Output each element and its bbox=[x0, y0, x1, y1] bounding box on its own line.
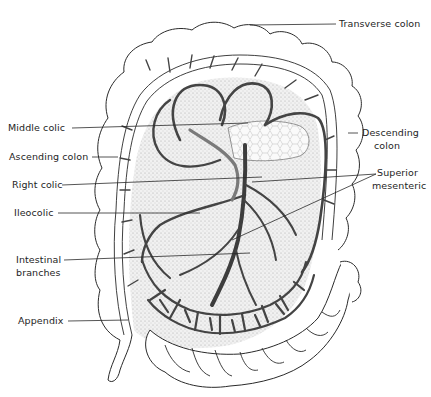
label-right-colic: Right colic bbox=[12, 179, 63, 191]
label-ascending-colon: Ascending colon bbox=[9, 151, 88, 163]
label-intestinal-branches-line2: branches bbox=[16, 267, 61, 279]
label-appendix: Appendix bbox=[18, 315, 64, 327]
label-middle-colic: Middle colic bbox=[8, 122, 65, 134]
label-ileocolic: Ileocolic bbox=[14, 207, 54, 219]
appendix-shape bbox=[108, 335, 132, 382]
label-superior-mesenteric-line2: mesenteric bbox=[372, 180, 426, 192]
label-transverse-colon: Transverse colon bbox=[339, 18, 420, 30]
label-descending-colon-line2: colon bbox=[374, 140, 400, 152]
label-descending-colon-line1: Descending bbox=[362, 127, 419, 139]
pancreas-region bbox=[228, 121, 309, 161]
anatomical-diagram: Transverse colon Middle colic Ascending … bbox=[0, 0, 431, 397]
intestine-illustration bbox=[0, 0, 431, 397]
label-superior-mesenteric-line1: Superior bbox=[377, 167, 418, 179]
label-intestinal-branches-line1: Intestinal bbox=[16, 254, 61, 266]
